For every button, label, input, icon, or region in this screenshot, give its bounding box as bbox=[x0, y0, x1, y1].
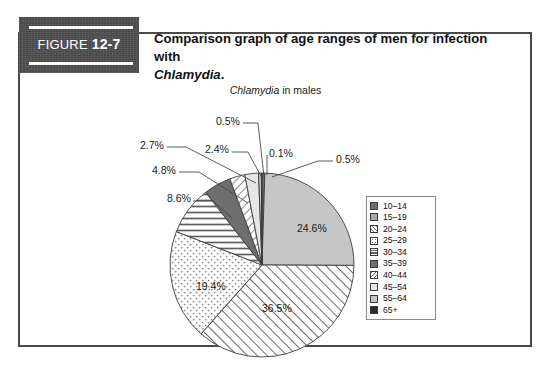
callout-label-2-4: 2.4% bbox=[205, 143, 229, 155]
legend-item[interactable]: 65+ bbox=[370, 304, 431, 316]
callout-text: 0.1% bbox=[269, 147, 293, 159]
legend-item[interactable]: 20–24 bbox=[370, 223, 431, 235]
pie-slice bbox=[262, 173, 354, 265]
legend-item[interactable]: 55–64 bbox=[370, 293, 431, 305]
figure-caption: Comparison graph of age ranges of men fo… bbox=[154, 30, 514, 83]
legend-item[interactable]: 45–54 bbox=[370, 281, 431, 293]
slice-value-label: 19.4% bbox=[196, 280, 226, 292]
figure-number-tab: FIGURE 12-7 bbox=[19, 17, 139, 73]
legend-item[interactable]: 30–34 bbox=[370, 246, 431, 258]
caption-italic-term: Chlamydia bbox=[154, 67, 221, 82]
legend-item-label: 30–34 bbox=[383, 248, 407, 257]
figure-number: 12-7 bbox=[92, 36, 121, 52]
callout-label-4-8: 4.8% bbox=[152, 164, 176, 176]
legend-item-label: 25–29 bbox=[383, 236, 407, 245]
callout-label-0-1: 0.1% bbox=[269, 147, 293, 159]
legend-item-label: 10–14 bbox=[383, 202, 407, 211]
legend-item-label: 35–39 bbox=[383, 259, 407, 268]
slice-value-text: 19.4% bbox=[196, 280, 226, 292]
legend-swatch-icon bbox=[370, 260, 378, 268]
legend-swatch-icon bbox=[370, 237, 378, 245]
legend-swatch-icon bbox=[370, 213, 378, 221]
callout-label-0-5-right: 0.5% bbox=[336, 153, 360, 165]
legend-item[interactable]: 40–44 bbox=[370, 270, 431, 282]
legend-item[interactable]: 10–14 bbox=[370, 200, 431, 212]
callout-label-0-5-top: 0.5% bbox=[216, 115, 240, 127]
legend-swatch-icon bbox=[370, 202, 378, 210]
legend-item-label: 65+ bbox=[383, 306, 398, 315]
legend-item[interactable]: 35–39 bbox=[370, 258, 431, 270]
legend-item-label: 15–19 bbox=[383, 213, 407, 222]
callout-text: 0.5% bbox=[336, 153, 360, 165]
callout-label-2-7: 2.7% bbox=[140, 139, 164, 151]
legend-item-label: 55–64 bbox=[383, 294, 407, 303]
callout-label-8-6: 8.6% bbox=[167, 192, 191, 204]
legend-swatch-icon bbox=[370, 306, 378, 314]
legend-item[interactable]: 25–29 bbox=[370, 235, 431, 247]
callout-text: 2.4% bbox=[205, 143, 229, 155]
legend-item-label: 45–54 bbox=[383, 283, 407, 292]
chart-title: Chlamydia in males bbox=[0, 84, 551, 96]
slice-value-label: 24.6% bbox=[297, 222, 327, 234]
callout-text: 8.6% bbox=[167, 192, 191, 204]
legend-item[interactable]: 15–19 bbox=[370, 212, 431, 224]
chart-title-rest: in males bbox=[279, 84, 321, 96]
slice-value-text: 24.6% bbox=[297, 222, 327, 234]
tab-rule-bottom bbox=[29, 62, 133, 65]
callout-text: 0.5% bbox=[216, 115, 240, 127]
slice-value-text: 36.5% bbox=[262, 302, 292, 314]
chart-legend: 10–1415–1920–2425–2930–3435–3940–4445–54… bbox=[366, 196, 436, 320]
legend-swatch-icon bbox=[370, 225, 378, 233]
legend-swatch-icon bbox=[370, 295, 378, 303]
legend-item-label: 40–44 bbox=[383, 271, 407, 280]
slice-value-label: 36.5% bbox=[262, 302, 292, 314]
legend-swatch-icon bbox=[370, 248, 378, 256]
figure-word: FIGURE bbox=[38, 37, 88, 52]
callout-text: 2.7% bbox=[140, 139, 164, 151]
chart-title-italic: Chlamydia bbox=[230, 84, 280, 96]
callout-text: 4.8% bbox=[152, 164, 176, 176]
legend-swatch-icon bbox=[370, 271, 378, 279]
figure-number-label: FIGURE 12-7 bbox=[19, 36, 139, 52]
caption-line-1: Comparison graph of age ranges of men fo… bbox=[154, 31, 487, 64]
pie-slice bbox=[261, 173, 262, 265]
legend-item-label: 20–24 bbox=[383, 225, 407, 234]
tab-rule-top bbox=[29, 26, 133, 29]
caption-period: . bbox=[221, 67, 225, 82]
legend-swatch-icon bbox=[370, 283, 378, 291]
